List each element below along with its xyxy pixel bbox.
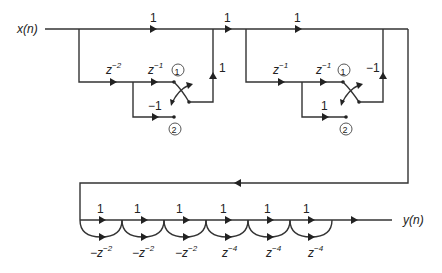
between-gain: 1 [224, 11, 231, 25]
stage2: 1 z−1 z−1 1 1 2 −1 [246, 11, 408, 135]
arrow-icon [151, 78, 158, 86]
chain-section: 1 z−4 [248, 202, 290, 260]
node-label: 1 [341, 67, 346, 77]
arrow-icon [278, 78, 285, 86]
arrow-icon [152, 113, 159, 121]
stage1-top-gain: 1 [150, 11, 157, 25]
chain-section: 1 −z−2 [164, 202, 206, 260]
output-label: y(n) [402, 213, 424, 227]
svg-text:−z−2: −z−2 [90, 244, 113, 260]
svg-text:z−4: z−4 [265, 244, 282, 260]
stage2-delay2: z−1 [315, 61, 331, 77]
svg-text:1: 1 [303, 202, 310, 216]
stage2-feedback-gain: −1 [366, 61, 380, 75]
arrow-icon [295, 25, 302, 33]
svg-text:z−4: z−4 [221, 244, 238, 260]
stage1-delay1: z−2 [105, 61, 122, 77]
chain-section: 1 z−4 [290, 202, 332, 260]
stage1-delay2: z−1 [147, 61, 163, 77]
arrow-icon [186, 82, 193, 89]
arrow-icon [356, 82, 363, 89]
arrow-icon [225, 25, 232, 33]
arrow-icon [379, 72, 387, 79]
arrow-icon [320, 78, 327, 86]
arrow-icon [351, 216, 358, 224]
arrow-icon [209, 72, 217, 79]
stage1-lower-gain: −1 [148, 99, 162, 113]
chain-section: 1 z−4 [206, 202, 248, 260]
node-dot [172, 115, 176, 119]
svg-text:1: 1 [176, 202, 183, 216]
stage1-feedback-gain: 1 [219, 61, 226, 75]
stage2-lower-gain: 1 [321, 99, 328, 113]
stage2-delay1: z−1 [272, 61, 288, 77]
svg-text:1: 1 [97, 202, 104, 216]
node-label: 2 [343, 125, 348, 135]
chain-section: 1 −z−2 [122, 202, 164, 260]
signal-flow-diagram: x(n) 1 z−2 z−1 1 −1 2 1 1 [0, 0, 442, 273]
svg-text:1: 1 [220, 202, 227, 216]
return-path [80, 29, 408, 220]
svg-text:−z−2: −z−2 [132, 244, 155, 260]
node-label: 1 [175, 67, 180, 77]
svg-text:−z−2: −z−2 [175, 244, 198, 260]
arrow-icon [110, 78, 117, 86]
input-label: x(n) [16, 22, 38, 36]
svg-text:z−4: z−4 [307, 244, 324, 260]
stage1: 1 z−2 z−1 1 −1 2 1 [45, 11, 246, 135]
arrow-icon [150, 25, 157, 33]
node-dot [344, 115, 348, 119]
svg-text:1: 1 [134, 202, 141, 216]
node-label: 2 [172, 125, 177, 135]
svg-text:1: 1 [264, 202, 271, 216]
output-chain: y(n) 1 −z−2 1 −z−2 1 −z−2 [80, 202, 424, 260]
chain-section: 1 −z−2 [80, 202, 122, 260]
stage2-top-gain: 1 [294, 11, 301, 25]
arrow-icon [322, 113, 329, 121]
arrow-icon [234, 179, 241, 187]
